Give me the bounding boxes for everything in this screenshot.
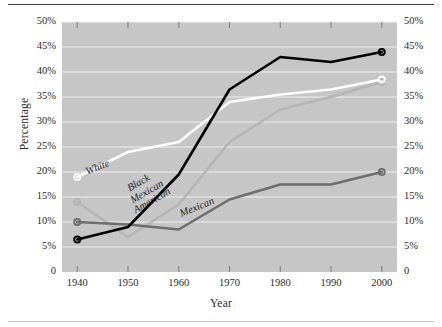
y-tick-label-left: 50% [22,15,56,26]
y-tick-label-right: 25% [404,140,438,151]
y-tick-label-right: 0 [404,265,438,276]
x-tick-label: 1990 [309,277,353,288]
y-tick-label-left: 0 [22,265,56,276]
x-tick-label: 1970 [208,277,252,288]
x-tick-label: 1960 [157,277,201,288]
y-tick-label-left: 45% [22,40,56,51]
y-tick-label-left: 10% [22,215,56,226]
x-tick-label: 1950 [106,277,150,288]
y-tick-label-left: 40% [22,65,56,76]
x-tick-label: 1940 [55,277,99,288]
x-axis-title: Year [0,297,442,309]
x-tick-label: 1980 [258,277,302,288]
y-tick-label-left: 20% [22,165,56,176]
y-tick-label-right: 30% [404,115,438,126]
y-tick-label-left: 5% [22,240,56,251]
x-tick-label: 2000 [360,277,404,288]
figure-container: Percentage Year 05%10%15%20%25%30%35%40%… [0,0,442,327]
y-tick-label-right: 5% [404,240,438,251]
y-tick-label-right: 50% [404,15,438,26]
y-tick-label-left: 15% [22,190,56,201]
y-tick-label-right: 45% [404,40,438,51]
y-tick-label-left: 30% [22,115,56,126]
y-tick-label-left: 35% [22,90,56,101]
y-tick-label-right: 35% [404,90,438,101]
y-tick-label-right: 15% [404,190,438,201]
y-tick-label-right: 40% [404,65,438,76]
y-tick-label-left: 25% [22,140,56,151]
y-tick-label-right: 20% [404,165,438,176]
y-tick-label-right: 10% [404,215,438,226]
